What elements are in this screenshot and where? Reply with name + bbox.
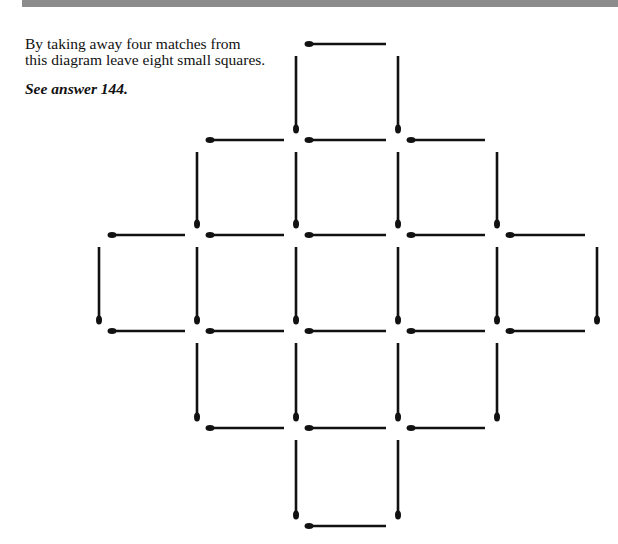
match-vertical[interactable] — [293, 343, 299, 422]
match-head-icon — [407, 425, 416, 431]
match-vertical[interactable] — [395, 247, 401, 325]
match-head-icon — [194, 413, 200, 422]
match-vertical[interactable] — [96, 247, 102, 325]
match-head-icon — [206, 137, 215, 143]
match-horizontal[interactable] — [206, 328, 285, 334]
match-head-icon — [305, 137, 314, 143]
match-head-icon — [395, 220, 401, 229]
match-horizontal[interactable] — [305, 523, 387, 529]
match-horizontal[interactable] — [108, 232, 186, 238]
match-head-icon — [108, 328, 117, 334]
match-vertical[interactable] — [194, 152, 200, 229]
match-head-icon — [293, 511, 299, 520]
match-vertical[interactable] — [293, 152, 299, 229]
match-head-icon — [305, 425, 314, 431]
match-head-icon — [395, 316, 401, 325]
match-horizontal[interactable] — [206, 137, 285, 143]
match-horizontal[interactable] — [305, 425, 387, 431]
match-head-icon — [206, 232, 215, 238]
match-vertical[interactable] — [395, 440, 401, 520]
match-head-icon — [206, 425, 215, 431]
match-horizontal[interactable] — [305, 41, 387, 47]
match-head-icon — [494, 316, 500, 325]
match-horizontal[interactable] — [108, 328, 186, 334]
match-vertical[interactable] — [494, 343, 500, 422]
match-horizontal[interactable] — [305, 328, 387, 334]
match-head-icon — [305, 523, 314, 529]
match-head-icon — [506, 328, 515, 334]
match-head-icon — [395, 511, 401, 520]
match-horizontal[interactable] — [407, 328, 486, 334]
match-head-icon — [407, 137, 416, 143]
matchstick-diagram — [0, 0, 618, 544]
match-vertical[interactable] — [293, 247, 299, 325]
match-vertical[interactable] — [293, 440, 299, 520]
match-head-icon — [206, 328, 215, 334]
match-head-icon — [96, 316, 102, 325]
match-head-icon — [305, 41, 314, 47]
match-head-icon — [305, 328, 314, 334]
match-head-icon — [594, 316, 600, 325]
match-head-icon — [194, 316, 200, 325]
match-horizontal[interactable] — [206, 232, 285, 238]
match-horizontal[interactable] — [506, 232, 586, 238]
match-head-icon — [395, 125, 401, 134]
match-head-icon — [407, 328, 416, 334]
match-head-icon — [293, 220, 299, 229]
match-vertical[interactable] — [395, 343, 401, 422]
match-horizontal[interactable] — [305, 137, 387, 143]
match-head-icon — [506, 232, 515, 238]
match-vertical[interactable] — [194, 247, 200, 325]
match-vertical[interactable] — [395, 152, 401, 229]
match-head-icon — [407, 232, 416, 238]
match-vertical[interactable] — [594, 247, 600, 325]
match-vertical[interactable] — [494, 247, 500, 325]
match-head-icon — [293, 413, 299, 422]
match-head-icon — [108, 232, 117, 238]
match-vertical[interactable] — [395, 56, 401, 134]
match-head-icon — [305, 232, 314, 238]
match-vertical[interactable] — [293, 56, 299, 134]
match-vertical[interactable] — [194, 343, 200, 422]
match-head-icon — [293, 316, 299, 325]
match-horizontal[interactable] — [206, 425, 285, 431]
match-head-icon — [494, 220, 500, 229]
match-head-icon — [293, 125, 299, 134]
match-vertical[interactable] — [494, 152, 500, 229]
match-horizontal[interactable] — [407, 137, 486, 143]
match-head-icon — [194, 220, 200, 229]
match-horizontal[interactable] — [407, 425, 486, 431]
match-horizontal[interactable] — [506, 328, 586, 334]
match-head-icon — [395, 413, 401, 422]
match-head-icon — [494, 413, 500, 422]
match-horizontal[interactable] — [305, 232, 387, 238]
match-horizontal[interactable] — [407, 232, 486, 238]
